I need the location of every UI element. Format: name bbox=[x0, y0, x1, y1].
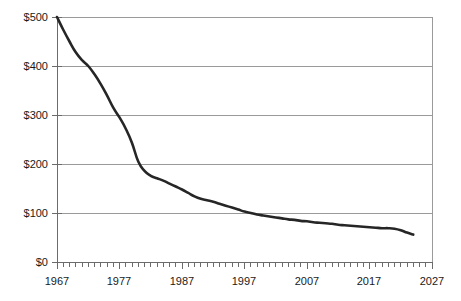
x-tick-marks bbox=[57, 262, 432, 269]
y-tick-label-200: $200 bbox=[24, 158, 48, 170]
chart-canvas: $500 $400 $300 $200 $100 $0 1967 1977 19… bbox=[0, 0, 461, 301]
x-tick-label-1987: 1987 bbox=[170, 275, 194, 287]
line-chart-figure: $500 $400 $300 $200 $100 $0 1967 1977 19… bbox=[0, 0, 461, 301]
x-tick-label-2017: 2017 bbox=[357, 275, 381, 287]
y-tick-label-100: $100 bbox=[24, 207, 48, 219]
x-tick-labels: 1967 1977 1987 1997 2007 2017 2027 bbox=[45, 275, 444, 287]
x-tick-label-2027: 2027 bbox=[420, 275, 444, 287]
y-tick-label-300: $300 bbox=[24, 109, 48, 121]
horizontal-gridlines bbox=[57, 17, 432, 213]
y-tick-label-500: $500 bbox=[24, 11, 48, 23]
plot-frame bbox=[57, 17, 432, 262]
x-tick-label-1997: 1997 bbox=[232, 275, 256, 287]
x-tick-label-1977: 1977 bbox=[107, 275, 131, 287]
y-tick-label-400: $400 bbox=[24, 60, 48, 72]
y-tick-label-0: $0 bbox=[36, 256, 48, 268]
x-tick-label-1967: 1967 bbox=[45, 275, 69, 287]
x-tick-label-2007: 2007 bbox=[295, 275, 319, 287]
y-tick-labels: $500 $400 $300 $200 $100 $0 bbox=[24, 11, 48, 268]
data-series-group bbox=[57, 17, 413, 235]
data-line-value bbox=[57, 17, 413, 235]
